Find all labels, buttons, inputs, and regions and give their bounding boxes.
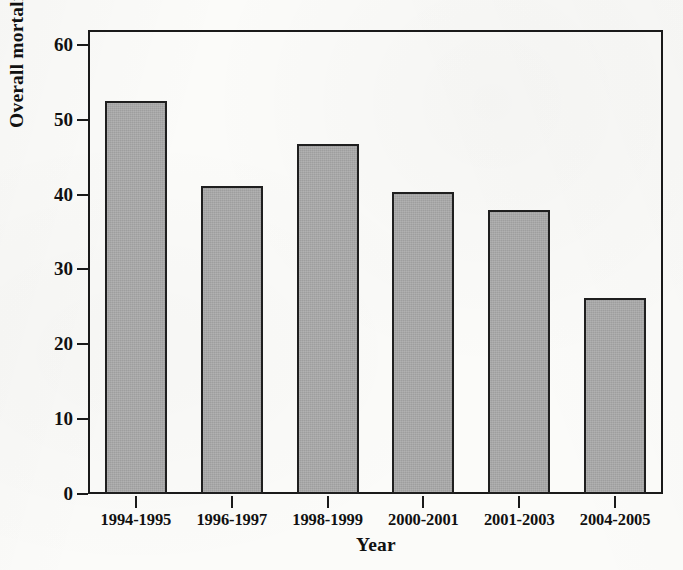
y-tick-mark xyxy=(77,418,88,420)
y-tick-mark xyxy=(77,493,88,495)
y-tick-label: 20 xyxy=(29,332,73,356)
y-tick-mark xyxy=(77,194,88,196)
bar xyxy=(584,298,646,494)
x-axis-title: Year xyxy=(88,534,664,556)
x-tick-mark xyxy=(518,496,520,508)
y-tick-mark xyxy=(77,268,88,270)
y-axis-title: Overall mortality, % xyxy=(4,0,30,289)
x-tick-mark xyxy=(422,496,424,508)
y-tick-label: 0 xyxy=(29,482,73,506)
bar xyxy=(105,101,167,494)
bar xyxy=(201,186,263,494)
y-tick-label: 30 xyxy=(29,257,73,281)
x-tick-mark xyxy=(135,496,137,508)
y-tick-label: 50 xyxy=(29,108,73,132)
x-tick-mark xyxy=(327,496,329,508)
plot-area xyxy=(88,30,663,494)
bar xyxy=(392,192,454,494)
y-tick-mark xyxy=(77,119,88,121)
x-tick-mark xyxy=(614,496,616,508)
y-tick-label: 40 xyxy=(29,183,73,207)
y-tick-mark xyxy=(77,343,88,345)
bar xyxy=(297,144,359,494)
chart-figure: Overall mortality, % 0102030405060 1994-… xyxy=(0,0,683,570)
y-tick-label: 60 xyxy=(29,33,73,57)
x-tick-mark xyxy=(231,496,233,508)
x-tick-label: 2004-2005 xyxy=(557,510,673,530)
y-axis-title-text: Overall mortality, % xyxy=(4,0,30,289)
y-tick-mark xyxy=(77,44,88,46)
y-tick-label: 10 xyxy=(29,407,73,431)
bar xyxy=(488,210,550,494)
